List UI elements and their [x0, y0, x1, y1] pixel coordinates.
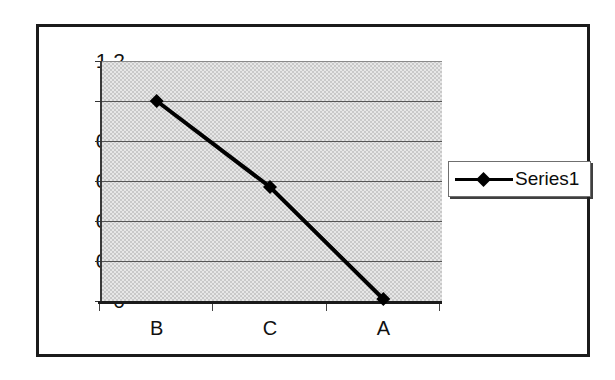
y-axis-tick	[95, 261, 102, 262]
x-axis-category-label: A	[353, 317, 413, 339]
x-axis-tick	[326, 304, 327, 311]
x-axis-category-label: C	[240, 317, 300, 339]
legend-entry-label: Series1	[515, 169, 579, 189]
y-axis-tick	[95, 61, 102, 62]
x-axis-line	[98, 301, 442, 304]
x-axis-tick	[212, 304, 213, 311]
chart-frame[interactable]: 1.2 1 0.8 0.6 0.4 0.2 0 B C A	[36, 24, 590, 357]
plot-area-top-border	[102, 61, 442, 62]
gridline	[102, 101, 442, 102]
legend-key	[455, 169, 513, 189]
gridline	[102, 261, 442, 262]
gridline	[102, 181, 442, 182]
y-axis-tick	[95, 181, 102, 182]
y-axis-tick	[95, 101, 102, 102]
y-axis-tick	[95, 221, 102, 222]
x-axis-category-label: B	[127, 317, 187, 339]
diamond-marker-icon	[476, 172, 491, 187]
x-axis-tick	[99, 304, 100, 311]
plot-area[interactable]	[100, 61, 442, 301]
legend[interactable]: Series1	[448, 161, 591, 197]
gridline	[102, 221, 442, 222]
gridline	[102, 141, 442, 142]
y-axis-tick	[95, 141, 102, 142]
x-axis-tick	[439, 304, 440, 311]
